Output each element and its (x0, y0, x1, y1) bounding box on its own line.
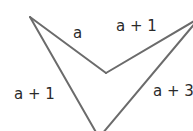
side-left (30, 17, 97, 131)
dart-diagram: a a + 1 a + 1 a + 3 (0, 0, 193, 131)
label-right-side: a + 3 (153, 82, 193, 100)
side-right (102, 22, 193, 131)
label-top-left-side: a (73, 24, 82, 42)
label-left-side: a + 1 (14, 85, 55, 103)
side-top-left (30, 17, 106, 73)
label-top-right-side: a + 1 (116, 17, 157, 35)
